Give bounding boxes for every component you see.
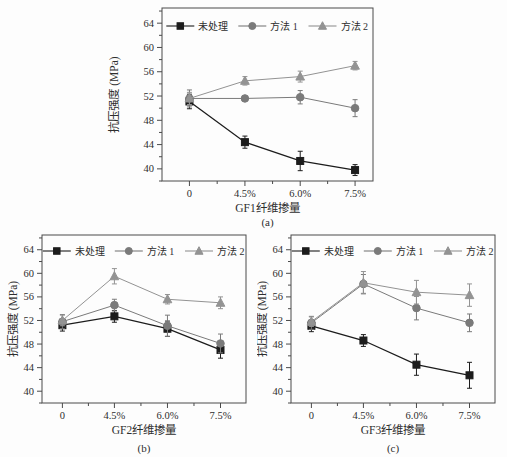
y-tick-label: 40 <box>273 386 284 397</box>
marker-circle <box>296 93 304 101</box>
y-tick-label: 56 <box>24 291 35 302</box>
y-tick-label: 56 <box>273 291 284 302</box>
y-tick-label: 44 <box>273 362 284 373</box>
chart-b-caption: (b) <box>5 441 255 455</box>
y-axis-label: 抗压强度 (MPa) <box>107 56 121 132</box>
legend-label: 方法 1 <box>147 245 175 257</box>
y-tick-label: 48 <box>24 339 35 350</box>
plot-frame <box>291 235 495 403</box>
legend-label: 未处理 <box>324 246 354 257</box>
legend-label: 方法 2 <box>466 245 494 257</box>
marker-square <box>360 337 367 344</box>
y-tick-label: 52 <box>273 315 284 326</box>
y-tick-label: 60 <box>144 42 155 53</box>
chart-c: 4044485256606404.5%6.0%7.5%GF3纤维掺量抗压强度 (… <box>257 229 503 457</box>
legend-label: 未处理 <box>198 21 228 32</box>
chart-b: 4044485256606404.5%6.0%7.5%GF2纤维掺量抗压强度 (… <box>5 229 255 457</box>
marker-square <box>413 361 420 368</box>
y-tick-label: 52 <box>24 315 35 326</box>
marker-square <box>303 248 310 255</box>
x-tick-label: 6.0% <box>406 410 428 421</box>
x-tick-label: 0 <box>60 410 65 421</box>
marker-square <box>352 167 359 174</box>
marker-circle <box>125 247 132 254</box>
x-tick-label: 6.0% <box>289 188 311 199</box>
marker-circle <box>164 322 172 330</box>
y-tick-label: 48 <box>273 339 284 350</box>
x-tick-label: 7.5% <box>344 188 366 199</box>
y-axis-label: 抗压强度 (MPa) <box>257 281 269 357</box>
series-line-square <box>62 316 220 350</box>
series-line-square <box>189 101 355 170</box>
x-tick-label: 4.5% <box>352 410 374 421</box>
legend-label: 方法 1 <box>396 245 424 257</box>
x-tick-label: 4.5% <box>103 410 125 421</box>
marker-circle <box>374 247 381 254</box>
y-tick-label: 64 <box>24 244 35 255</box>
series-line-circle <box>189 97 355 108</box>
marker-square <box>297 157 304 164</box>
marker-circle <box>111 301 119 309</box>
y-tick-label: 64 <box>144 18 155 29</box>
plot-frame <box>162 8 373 181</box>
plot-frame <box>42 235 246 403</box>
y-tick-label: 60 <box>273 268 284 279</box>
legend-label: 方法 1 <box>270 20 298 32</box>
x-axis-label: GF3纤维掺量 <box>361 423 425 436</box>
marker-square <box>111 313 118 320</box>
marker-circle <box>351 104 359 112</box>
y-axis-label: 抗压强度 (MPa) <box>6 281 20 357</box>
x-tick-label: 6.0% <box>157 410 179 421</box>
y-tick-label: 60 <box>24 268 35 279</box>
marker-square <box>54 248 61 255</box>
y-tick-label: 40 <box>24 386 35 397</box>
y-tick-label: 44 <box>144 139 155 150</box>
legend-label: 未处理 <box>75 246 105 257</box>
x-axis-label: GF1纤维掺量 <box>235 201 299 214</box>
series-line-circle <box>62 305 220 343</box>
marker-square <box>177 23 184 30</box>
y-tick-label: 44 <box>24 362 35 373</box>
marker-square <box>241 139 248 146</box>
marker-circle <box>217 340 225 348</box>
y-tick-label: 52 <box>144 91 155 102</box>
chart-a-canvas: 4044485256606404.5%6.0%7.5%GF1纤维掺量抗压强度 (… <box>100 0 400 215</box>
chart-b-canvas: 4044485256606404.5%6.0%7.5%GF2纤维掺量抗压强度 (… <box>5 229 255 441</box>
chart-a: 4044485256606404.5%6.0%7.5%GF1纤维掺量抗压强度 (… <box>100 0 400 229</box>
x-tick-label: 0 <box>187 188 192 199</box>
chart-c-canvas: 4044485256606404.5%6.0%7.5%GF3纤维掺量抗压强度 (… <box>257 229 503 441</box>
marker-triangle <box>110 272 119 280</box>
series-line-triangle <box>189 66 355 99</box>
marker-square <box>466 372 473 379</box>
marker-circle <box>241 95 249 103</box>
y-tick-label: 56 <box>144 66 155 77</box>
series-line-square <box>311 326 469 376</box>
marker-triangle <box>163 295 172 303</box>
y-tick-label: 64 <box>273 244 284 255</box>
marker-triangle <box>351 61 360 69</box>
y-tick-label: 40 <box>144 163 155 174</box>
chart-c-caption: (c) <box>257 441 503 455</box>
marker-circle <box>466 319 474 327</box>
legend-label: 方法 2 <box>341 20 369 32</box>
x-tick-label: 0 <box>309 410 314 421</box>
marker-circle <box>413 304 421 312</box>
x-axis-label: GF2纤维掺量 <box>112 423 176 436</box>
x-tick-label: 4.5% <box>234 188 256 199</box>
chart-a-caption: (a) <box>100 215 400 229</box>
legend-label: 方法 2 <box>217 245 245 257</box>
marker-circle <box>249 22 256 29</box>
x-tick-label: 7.5% <box>210 410 232 421</box>
x-tick-label: 7.5% <box>459 410 481 421</box>
y-tick-label: 48 <box>144 115 155 126</box>
composite-figure: 4044485256606404.5%6.0%7.5%GF1纤维掺量抗压强度 (… <box>0 0 507 457</box>
